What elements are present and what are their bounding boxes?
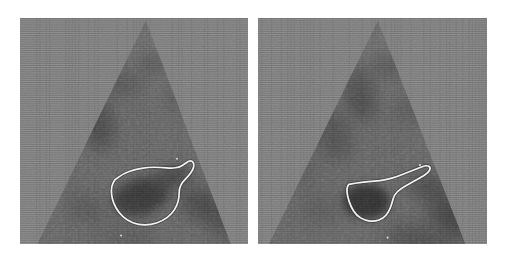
left-ultrasound-panel-canvas xyxy=(20,18,248,244)
right-ultrasound-panel-canvas xyxy=(258,18,487,244)
echocardiogram-figure xyxy=(0,0,509,261)
right-ultrasound-panel[interactable] xyxy=(258,18,487,244)
left-ultrasound-panel[interactable] xyxy=(20,18,248,244)
